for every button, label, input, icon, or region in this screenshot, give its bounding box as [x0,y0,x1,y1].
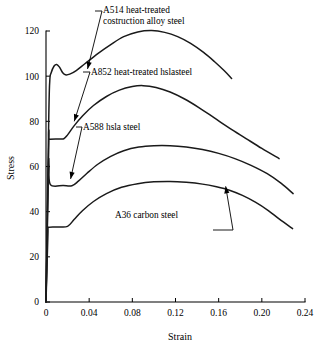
x-tick-label: 0.12 [167,308,184,318]
curve-annotations: A514 heat-treatedcostruction alloy steel… [70,5,233,230]
leader-line [88,11,102,69]
y-tick-label: 0 [34,297,39,307]
annotation-a852: A852 heat-treated hslasteel [91,67,193,77]
curve-3: A588 hsla steel [46,146,293,302]
annotation-a36: A36 carbon steel [115,210,178,220]
leader-arrowhead [70,172,75,179]
y-tick-label: 80 [30,117,40,127]
leader-line [213,186,233,230]
stress-strain-figure: 00.040.080.120.160.200.24 02040608010012… [0,0,324,344]
x-tick-labels: 00.040.080.120.160.200.24 [44,308,314,318]
x-tick-label: 0.20 [254,308,271,318]
x-tick-label: 0.04 [81,308,98,318]
x-axis-title: Strain [168,331,192,342]
y-tick-label: 60 [30,162,40,172]
x-tick-label: 0.16 [210,308,227,318]
x-tick-label: 0.08 [124,308,141,318]
leader-line [71,127,82,179]
x-tick-label: 0.24 [297,308,314,318]
chart-canvas: 00.040.080.120.160.200.24 02040608010012… [0,0,324,344]
annotation-a588: A588 hsla steel [83,122,141,132]
leader-line [74,72,90,121]
y-tick-label: 20 [30,252,40,262]
annotation-a514: A514 heat-treatedcostruction alloy steel [103,5,185,26]
y-axis-title: Stress [5,156,16,180]
y-tick-labels: 020406080100120 [25,26,40,307]
x-tick-label: 0 [44,308,49,318]
y-tick-label: 100 [25,72,40,82]
y-tick-label: 40 [30,207,40,217]
curve-4: A36 carbon steel [46,181,293,302]
y-tick-label: 120 [25,26,40,36]
curve-2: A852 heat-treated hslasteel [46,86,279,302]
